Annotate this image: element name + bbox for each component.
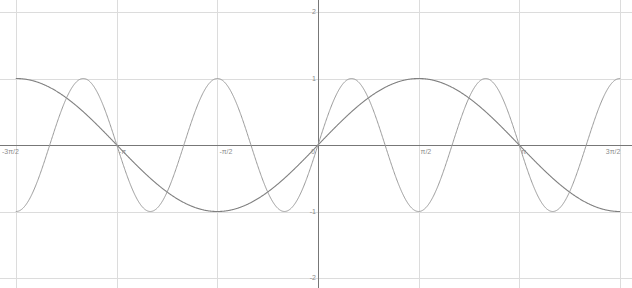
x-tick-label-2: -π/2	[219, 148, 232, 155]
x-tick-label-0: -3π/2	[2, 148, 19, 155]
grid-lines	[0, 0, 632, 288]
plot-canvas	[0, 0, 632, 288]
y-tick-label-0: 2	[308, 8, 316, 15]
x-tick-label-3: 0	[311, 148, 315, 155]
x-tick-label-1: -π	[119, 148, 126, 155]
y-tick-label-3: -2	[304, 274, 316, 281]
x-tick-label-5: π	[521, 148, 526, 155]
trig-plot-figure: -3π/2-π-π/20π/2π3π/221-1-2	[0, 0, 632, 288]
x-tick-label-4: π/2	[421, 148, 432, 155]
y-tick-label-1: 1	[308, 75, 316, 82]
y-tick-label-2: -1	[304, 208, 316, 215]
x-tick-label-6: 3π/2	[606, 148, 621, 155]
axis-lines	[0, 0, 632, 288]
